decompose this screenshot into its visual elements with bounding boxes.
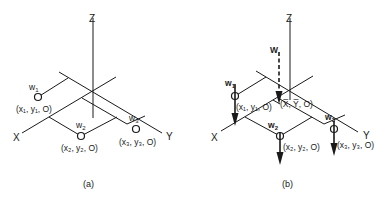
panel-b: Z X Y W (X̅, Y̅, O) w1 (x₁, y₁, O) w2 (x… <box>211 13 374 189</box>
weight-label-2: w2 <box>75 120 86 131</box>
mass-point-1 <box>35 94 42 101</box>
coord-label-1: (x₁, y₁, O) <box>236 102 272 112</box>
weight-label-1: w1 <box>224 78 236 89</box>
x-axis-label: X <box>13 132 20 143</box>
coord-label-1: (x₁, y₁, O) <box>16 104 52 114</box>
panel-a: Z X Y w1 (x₁, y₁, O) w2 (x₂, y₂, O) w3 (… <box>13 13 173 189</box>
arrowhead-2-icon <box>277 152 284 165</box>
coord-label-3: (x₃, y₃, O) <box>337 140 374 150</box>
caption-a: (a) <box>83 179 94 189</box>
x-axis-label: X <box>211 132 218 143</box>
coord-label-3: (x₃, y₃, O) <box>119 137 156 147</box>
weight-label-1: w1 <box>28 82 39 93</box>
center-of-gravity-diagram: Z X Y w1 (x₁, y₁, O) w2 (x₂, y₂, O) w3 (… <box>0 0 390 202</box>
grid-line <box>280 117 312 136</box>
weight-label-2: w2 <box>267 120 279 131</box>
z-axis-label: Z <box>286 13 292 24</box>
mass-point-2 <box>78 133 85 140</box>
grid-line <box>38 78 68 97</box>
grid-line <box>81 117 117 136</box>
y-axis <box>59 72 162 133</box>
resultant-label: W <box>270 45 279 55</box>
coord-label-2: (x₂, y₂, O) <box>283 142 320 152</box>
mass-point-3 <box>133 126 140 133</box>
weight-label-3: w3 <box>324 112 336 123</box>
grid-line <box>235 77 266 96</box>
coord-label-2: (x₂, y₂, O) <box>61 143 98 153</box>
weight-label-3: w3 <box>128 113 139 124</box>
caption-b: (b) <box>282 179 293 189</box>
centroid-coord-label: (X̅, Y̅, O) <box>280 99 313 109</box>
y-axis-label: Y <box>166 131 173 142</box>
z-axis-label: Z <box>89 13 95 24</box>
grid-line <box>82 98 127 124</box>
